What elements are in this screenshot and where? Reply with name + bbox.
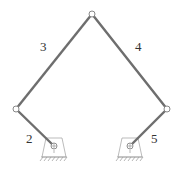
link-4 (92, 14, 167, 109)
label-link-3: 3 (40, 40, 47, 53)
label-link-5: 5 (151, 132, 158, 145)
linkage-diagram (0, 0, 181, 185)
ground-support-right (116, 138, 143, 161)
link-5 (130, 109, 167, 146)
label-link-2: 2 (26, 132, 33, 145)
joint-top (89, 11, 95, 17)
link-3 (16, 14, 92, 109)
ground-support-left (40, 138, 67, 161)
joint-left (13, 106, 19, 112)
link-2 (16, 109, 54, 146)
label-link-4: 4 (135, 40, 142, 53)
joint-right (164, 106, 170, 112)
